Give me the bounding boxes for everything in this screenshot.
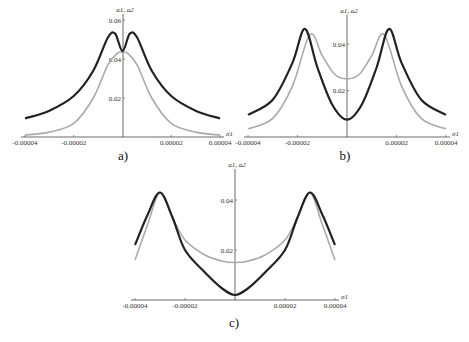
series-a2 bbox=[25, 52, 220, 135]
y-tick-label: 0.04 bbox=[333, 41, 346, 49]
x-tick-label: 0.00004 bbox=[435, 139, 458, 147]
y-tick-label: 0.02 bbox=[109, 95, 122, 103]
y-tick-label: 0.02 bbox=[221, 247, 234, 255]
y-axis-label: a1, a2 bbox=[340, 7, 358, 15]
x-axis-label: σ1 bbox=[452, 130, 459, 138]
panel-caption: b) bbox=[340, 148, 351, 163]
y-axis-label: a1, a2 bbox=[228, 161, 246, 169]
x-tick-label: 0.00004 bbox=[209, 139, 232, 147]
y-tick-label: 0.02 bbox=[333, 87, 346, 95]
panel-caption: c) bbox=[229, 315, 239, 330]
x-tick-label: 0.00004 bbox=[324, 302, 347, 310]
plot-a: -0.00004-0.000020.000020.000040.020.040.… bbox=[12, 6, 233, 163]
panel-caption: a) bbox=[118, 148, 128, 163]
x-tick-label: -0.00002 bbox=[61, 139, 87, 147]
x-tick-label: -0.00004 bbox=[12, 139, 38, 147]
plot-c: -0.00004-0.000020.000020.000040.020.04a1… bbox=[122, 161, 348, 330]
x-tick-label: -0.00002 bbox=[172, 302, 198, 310]
y-axis-label: a1, a2 bbox=[116, 6, 134, 14]
x-tick-label: 0.00002 bbox=[160, 139, 183, 147]
y-tick-label: 0.04 bbox=[221, 197, 234, 205]
x-tick-label: 0.00002 bbox=[274, 302, 297, 310]
x-tick-label: -0.00004 bbox=[122, 302, 148, 310]
x-tick-label: -0.00002 bbox=[285, 139, 311, 147]
x-tick-label: 0.00002 bbox=[385, 139, 408, 147]
chart-canvas: -0.00004-0.000020.000020.000040.020.040.… bbox=[0, 0, 469, 342]
y-tick-label: 0.06 bbox=[109, 17, 122, 25]
x-axis-label: σ1 bbox=[341, 293, 348, 301]
figure: -0.00004-0.000020.000020.000040.020.040.… bbox=[0, 0, 469, 342]
series-a1 bbox=[25, 32, 220, 118]
plot-b: -0.00004-0.000020.000020.000040.020.04a1… bbox=[235, 7, 459, 163]
x-axis-label: σ1 bbox=[226, 130, 233, 138]
x-tick-label: -0.00004 bbox=[235, 139, 261, 147]
